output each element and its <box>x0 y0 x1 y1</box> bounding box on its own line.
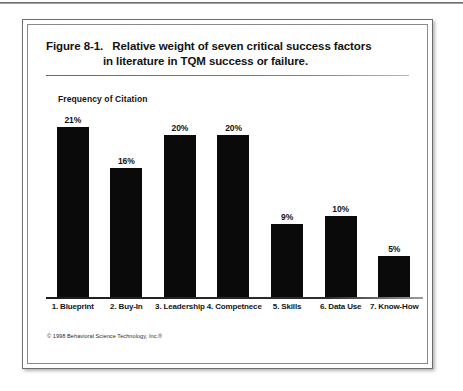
x-axis-label-7: 7. Know-How <box>367 302 421 311</box>
bar-rect <box>271 224 303 297</box>
bar-rect <box>217 135 249 297</box>
bar-group-1: 21% <box>46 115 100 297</box>
bar-value-label: 10% <box>332 204 349 214</box>
x-axis-label-1: 1. Blueprint <box>46 302 100 311</box>
bar-group-7: 5% <box>367 115 421 297</box>
copyright-notice: © 1998 Behavioral Science Technology, In… <box>47 333 162 339</box>
bar-series: 21% 16% 20% 20% 9% <box>46 115 421 297</box>
bar-group-2: 16% <box>100 115 154 297</box>
bar-value-label: 5% <box>388 244 400 254</box>
bar-rect <box>110 168 142 297</box>
figure-title-line-2: in literature in TQM success or failure. <box>46 54 409 69</box>
figure-frame-inner-border: Figure 8-1. Relative weight of seven cri… <box>27 24 428 364</box>
bar-rect <box>378 256 410 297</box>
title-divider <box>46 75 409 76</box>
figure-frame: Figure 8-1. Relative weight of seven cri… <box>22 19 433 369</box>
bar-value-label: 9% <box>281 212 293 222</box>
chart-baseline-axis <box>46 297 423 299</box>
page-top-rule <box>0 2 463 4</box>
bar-value-label: 20% <box>225 123 242 133</box>
bar-value-label: 16% <box>118 156 135 166</box>
bar-group-6: 10% <box>314 115 368 297</box>
figure-title-text-1: Relative weight of seven critical succes… <box>112 40 371 52</box>
x-axis-label-4: 4. Competnece <box>207 302 261 311</box>
figure-title: Figure 8-1. Relative weight of seven cri… <box>46 39 409 69</box>
bar-rect <box>325 216 357 297</box>
bar-group-3: 20% <box>153 115 207 297</box>
figure-number: Figure 8-1. <box>46 40 103 52</box>
chart-plot-area: 21% 16% 20% 20% 9% <box>46 115 421 297</box>
x-axis-label-2: 2. Buy-In <box>100 302 154 311</box>
bar-value-label: 20% <box>172 123 189 133</box>
x-axis-labels: 1. Blueprint 2. Buy-In 3. Leadership 4. … <box>46 302 421 311</box>
bar-group-5: 9% <box>260 115 314 297</box>
bar-rect <box>57 127 89 297</box>
x-axis-label-5: 5. Skills <box>260 302 314 311</box>
y-axis-caption: Frequency of Citation <box>58 94 147 104</box>
x-axis-label-6: 6. Data Use <box>314 302 368 311</box>
bar-rect <box>164 135 196 297</box>
x-axis-label-3: 3. Leadership <box>153 302 207 311</box>
bar-group-4: 20% <box>207 115 261 297</box>
bar-value-label: 21% <box>64 115 81 125</box>
figure-title-line-1: Figure 8-1. Relative weight of seven cri… <box>46 39 409 54</box>
